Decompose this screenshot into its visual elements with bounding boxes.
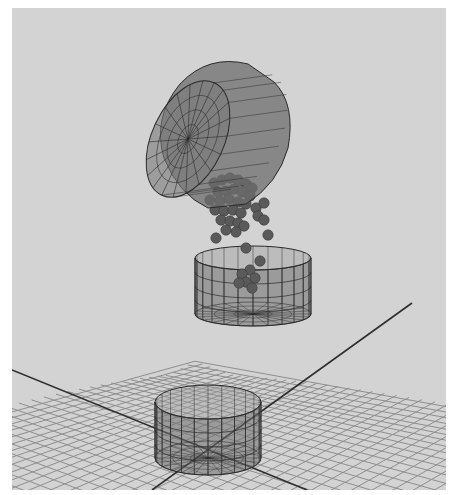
scene-canvas[interactable]	[12, 8, 446, 490]
3d-viewport[interactable]	[12, 8, 446, 490]
lower-container[interactable]	[155, 385, 261, 475]
